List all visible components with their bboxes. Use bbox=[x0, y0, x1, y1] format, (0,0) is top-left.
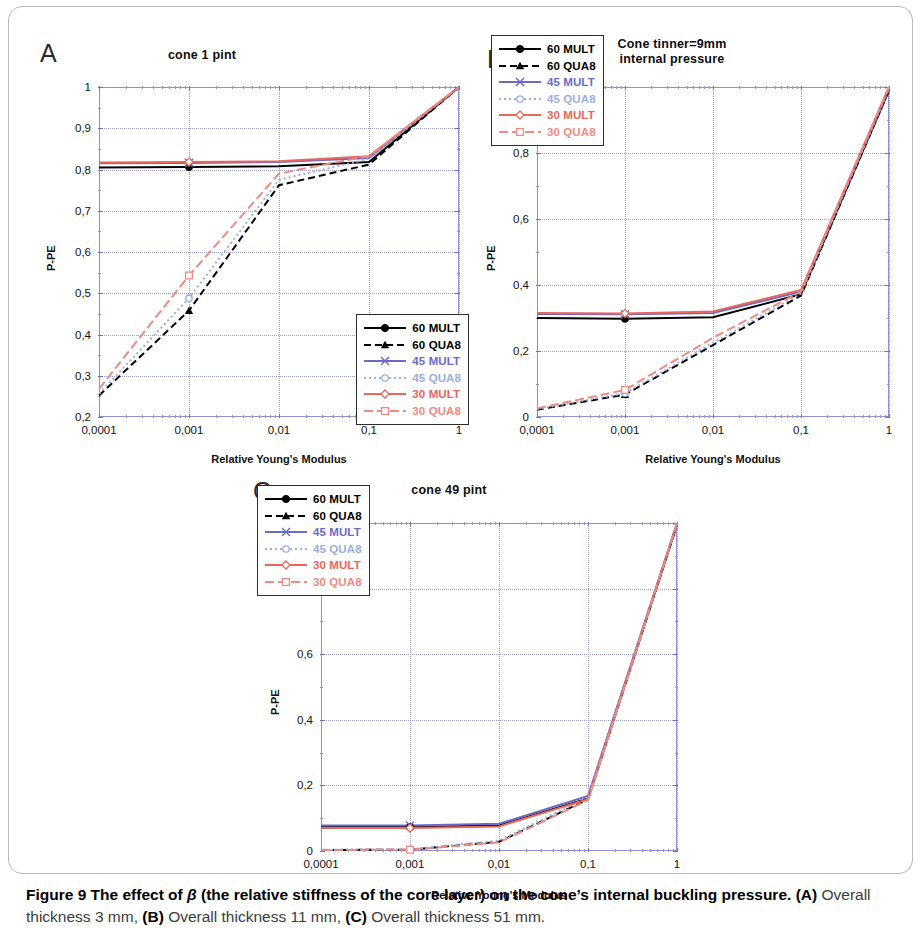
legend-marker-triangle-filled-icon bbox=[362, 338, 408, 352]
y-tick-label: 0,6 bbox=[491, 213, 529, 225]
x-tick-label: 0,0001 bbox=[519, 424, 554, 436]
y-axis-tick bbox=[673, 851, 678, 852]
legend-marker-circle-filled-icon bbox=[263, 492, 309, 506]
caption-c-text: Overall thickness 51 mm. bbox=[371, 908, 545, 925]
y-tick-label: 0 bbox=[275, 845, 313, 857]
y-tick-label: 0,2 bbox=[275, 779, 313, 791]
y-tick-label: 0,6 bbox=[275, 648, 313, 660]
legend-item: 60 MULT bbox=[362, 320, 461, 337]
x-tick-label: 0,1 bbox=[361, 424, 377, 436]
series-line bbox=[321, 524, 677, 828]
caption-figure-number: Figure 9 The effect of bbox=[26, 886, 183, 903]
caption-a-tag: (A) bbox=[796, 886, 818, 903]
series-layer bbox=[321, 523, 677, 851]
legend-label: 30 MULT bbox=[309, 559, 361, 571]
legend-marker-circle-filled-icon bbox=[362, 321, 408, 335]
x-tick-label: 0,01 bbox=[702, 424, 724, 436]
panel-b: B Cone tinner=9mm internal pressure P-PE… bbox=[477, 21, 917, 457]
legend-label: 30 QUA8 bbox=[408, 405, 461, 417]
y-tick-label: 0,4 bbox=[53, 329, 91, 341]
legend-label: 60 MULT bbox=[309, 493, 361, 505]
legend-item: 60 QUA8 bbox=[362, 337, 461, 354]
x-tick-label: 0,01 bbox=[488, 858, 510, 870]
legend-item: 30 QUA8 bbox=[263, 574, 362, 591]
legend-marker-diamond-icon bbox=[362, 387, 408, 401]
legend-marker-circle-filled-icon bbox=[497, 42, 543, 56]
legend-label: 45 QUA8 bbox=[543, 93, 596, 105]
caption-beta-symbol: β bbox=[187, 886, 197, 903]
legend-marker-circle-open-icon bbox=[362, 371, 408, 385]
legend-label: 30 QUA8 bbox=[309, 576, 362, 588]
y-tick-label: 0,2 bbox=[491, 345, 529, 357]
legend-item: 45 MULT bbox=[362, 353, 461, 370]
panel-a-legend: 60 MULT60 QUA845 MULT45 QUA830 MULT30 QU… bbox=[356, 314, 469, 425]
y-tick-label: 0,5 bbox=[53, 287, 91, 299]
panel-b-y-axis-title: P-PE bbox=[485, 245, 497, 271]
panel-b-legend: 60 MULT60 QUA845 MULT45 QUA830 MULT30 QU… bbox=[491, 35, 604, 146]
panel-c-plot-area: 0,00010,0010,010,1100,20,40,60,81 bbox=[321, 523, 677, 851]
panel-b-x-axis-title: Relative Young's Modulus bbox=[537, 453, 889, 465]
legend-item: 60 MULT bbox=[263, 491, 362, 508]
figure-caption: Figure 9 The effect of β (the relative s… bbox=[26, 884, 898, 928]
y-tick-label: 0,9 bbox=[53, 122, 91, 134]
legend-item: 60 QUA8 bbox=[497, 58, 596, 75]
x-tick-label: 0,01 bbox=[268, 424, 290, 436]
legend-marker-triangle-filled-icon bbox=[497, 59, 543, 73]
x-tick-label: 1 bbox=[674, 858, 680, 870]
panel-c-legend: 60 MULT60 QUA845 MULT45 QUA830 MULT30 QU… bbox=[257, 485, 370, 596]
legend-item: 45 MULT bbox=[263, 524, 362, 541]
caption-b-tag: (B) bbox=[142, 908, 164, 925]
legend-item: 30 QUA8 bbox=[362, 403, 461, 420]
legend-label: 30 QUA8 bbox=[543, 126, 596, 138]
panel-c-y-axis-title: P-PE bbox=[269, 689, 281, 715]
legend-marker-cross-icon bbox=[263, 525, 309, 539]
x-tick-label: 0,001 bbox=[611, 424, 640, 436]
series-line bbox=[321, 525, 677, 827]
x-tick-label: 0,001 bbox=[175, 424, 204, 436]
panel-a-x-axis-title: Relative Young's Modulus bbox=[99, 453, 459, 465]
x-tick-label: 1 bbox=[886, 424, 892, 436]
y-axis-tick bbox=[320, 851, 325, 852]
y-tick-label: 0,8 bbox=[53, 164, 91, 176]
x-tick-label: 1 bbox=[456, 424, 462, 436]
caption-main-text: (the relative stiffness of the core laye… bbox=[201, 886, 791, 903]
legend-marker-circle-open-icon bbox=[263, 542, 309, 556]
legend-item: 30 MULT bbox=[263, 557, 362, 574]
x-tick-label: 0,0001 bbox=[81, 424, 116, 436]
panel-a-title: cone 1 pint bbox=[37, 48, 367, 63]
series-line bbox=[321, 524, 677, 850]
legend-item: 60 QUA8 bbox=[263, 508, 362, 525]
legend-item: 30 MULT bbox=[362, 386, 461, 403]
panel-a: A cone 1 pint P-PE Relative Young's Modu… bbox=[23, 21, 475, 457]
legend-marker-cross-icon bbox=[362, 354, 408, 368]
legend-label: 45 MULT bbox=[408, 355, 460, 367]
x-tick-label: 0,1 bbox=[580, 858, 596, 870]
legend-label: 45 MULT bbox=[543, 76, 595, 88]
legend-marker-square-open-icon bbox=[362, 404, 408, 418]
y-tick-label: 0,8 bbox=[491, 147, 529, 159]
x-tick-label: 0,0001 bbox=[303, 858, 338, 870]
legend-label: 60 QUA8 bbox=[309, 510, 362, 522]
legend-marker-diamond-icon bbox=[497, 108, 543, 122]
legend-item: 30 QUA8 bbox=[497, 124, 596, 141]
legend-label: 60 QUA8 bbox=[543, 60, 596, 72]
caption-b-text: Overall thickness 11 mm, bbox=[168, 908, 341, 925]
y-tick-label: 0,4 bbox=[275, 714, 313, 726]
series-line bbox=[99, 87, 459, 163]
legend-label: 60 QUA8 bbox=[408, 339, 461, 351]
legend-label: 45 QUA8 bbox=[408, 372, 461, 384]
legend-marker-triangle-filled-icon bbox=[263, 509, 309, 523]
legend-marker-diamond-icon bbox=[263, 558, 309, 572]
y-axis-tick bbox=[98, 417, 103, 418]
legend-marker-circle-open-icon bbox=[497, 92, 543, 106]
y-tick-label: 0,6 bbox=[53, 246, 91, 258]
y-tick-label: 0,7 bbox=[53, 205, 91, 217]
legend-item: 45 QUA8 bbox=[263, 541, 362, 558]
legend-marker-cross-icon bbox=[497, 75, 543, 89]
y-tick-label: 1 bbox=[53, 81, 91, 93]
y-axis-tick bbox=[885, 417, 890, 418]
y-tick-label: 0,3 bbox=[53, 370, 91, 382]
panel-c: C cone 49 pint P-PE Relative Young's Mod… bbox=[241, 465, 693, 869]
legend-item: 45 QUA8 bbox=[497, 91, 596, 108]
legend-label: 30 MULT bbox=[408, 388, 460, 400]
